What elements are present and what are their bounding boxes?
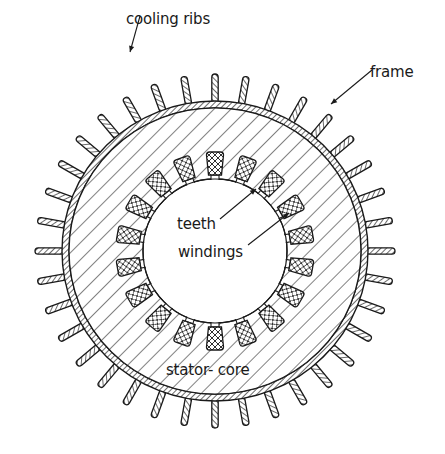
label-frame: frame [370, 65, 413, 80]
label-cooling-ribs: cooling ribs [126, 12, 210, 27]
label-stator-core: stator- core [166, 363, 249, 378]
label-teeth: teeth [177, 217, 216, 232]
frame-leader [331, 70, 372, 104]
label-windings: windings [178, 245, 243, 260]
